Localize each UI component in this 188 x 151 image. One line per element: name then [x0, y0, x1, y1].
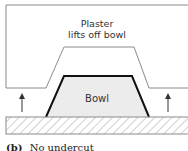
caption-tag: (b)	[6, 142, 22, 151]
plaster-mold-diagram: Plaster lifts off bowl Bowl (b) No under…	[0, 0, 188, 151]
plaster-label-line2: lifts off bowl	[68, 29, 126, 40]
bowl-label: Bowl	[85, 93, 109, 104]
caption: (b) No undercut	[6, 142, 94, 151]
base-hatched-strip	[6, 117, 188, 134]
plaster-label-line1: Plaster	[81, 18, 114, 29]
caption-text: No undercut	[30, 142, 94, 151]
